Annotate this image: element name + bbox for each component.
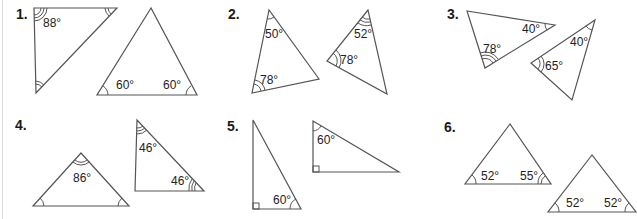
question-4-triangle-a: 86° [33,153,129,206]
question-number-1: 1. [16,6,28,22]
question-5-triangle-a: 60° [253,120,301,209]
angle-label: 52° [354,27,372,41]
worksheet-page: 1. 2. 3. 4. 5. 6. 88° 60° 60° [0,0,637,219]
question-4-triangle-b: 46° 46° [135,120,204,191]
question-1-triangle-b: 60° 60° [97,8,197,95]
question-number-4: 4. [15,117,27,133]
angle-label: 78° [260,73,278,87]
question-2-triangle-b: 52° 78° [327,10,387,94]
angle-label: 52° [481,169,499,183]
angle-label: 50° [265,27,283,41]
angle-label: 65° [545,59,563,73]
question-number-2: 2. [228,6,240,22]
angle-label: 60° [163,78,181,92]
angle-label: 52° [566,196,584,210]
angle-label: 60° [317,133,335,147]
angle-label: 40° [522,22,540,36]
question-6-triangle-a: 52° 55° [465,124,551,184]
angle-label: 46° [139,141,157,155]
angle-label: 60° [116,78,134,92]
angle-label: 78° [340,53,358,67]
angle-label: 55° [520,169,538,183]
question-2-triangle-a: 50° 78° [252,10,319,93]
angle-label: 78° [483,42,501,56]
angle-label: 52° [604,196,622,210]
triangle-figures: 1. 2. 3. 4. 5. 6. 88° 60° 60° [0,0,637,219]
question-3-triangle-b: 40° 65° [531,20,595,100]
angle-label: 40° [570,35,588,49]
right-angle-marker [313,166,319,172]
angle-label: 86° [73,171,91,185]
question-5-triangle-b: 60° [313,121,399,172]
question-number-3: 3. [447,6,459,22]
question-number-6: 6. [444,119,456,135]
question-1-triangle-a: 88° [34,8,117,93]
question-number-5: 5. [227,118,239,134]
angle-label: 60° [273,193,291,207]
question-3-triangle-a: 40° 78° [467,11,555,68]
right-angle-marker [253,203,259,209]
angle-label: 88° [43,16,61,30]
angle-label: 46° [171,174,189,188]
question-6-triangle-b: 52° 52° [548,155,636,212]
